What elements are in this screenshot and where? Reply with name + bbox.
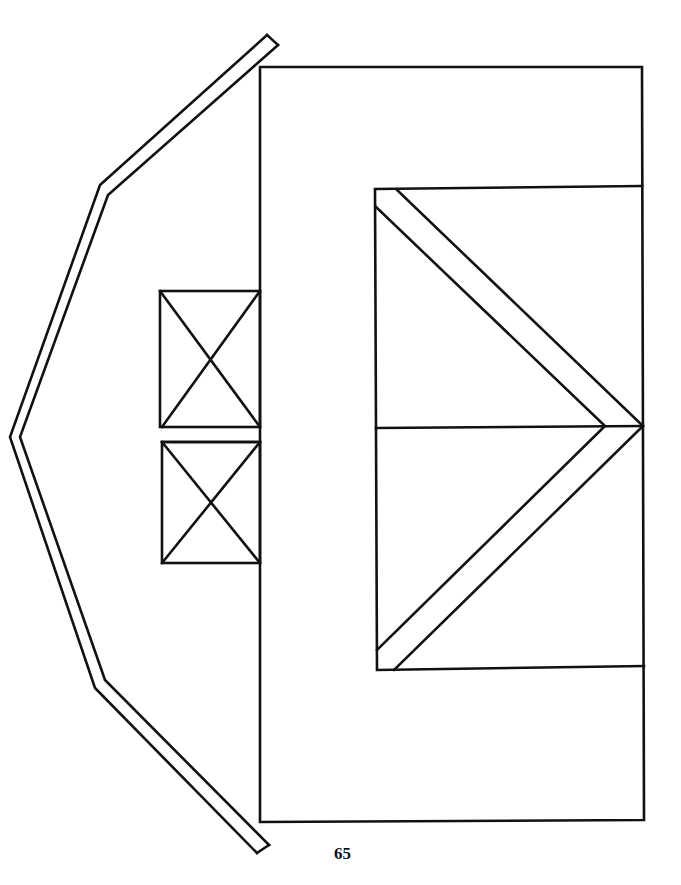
barn-pattern-drawing <box>0 0 681 885</box>
roof-trim-strip <box>10 35 278 853</box>
window-lower <box>162 442 260 563</box>
page-number: 65 <box>0 844 681 864</box>
barn-door <box>375 186 644 670</box>
window-upper <box>160 291 260 427</box>
